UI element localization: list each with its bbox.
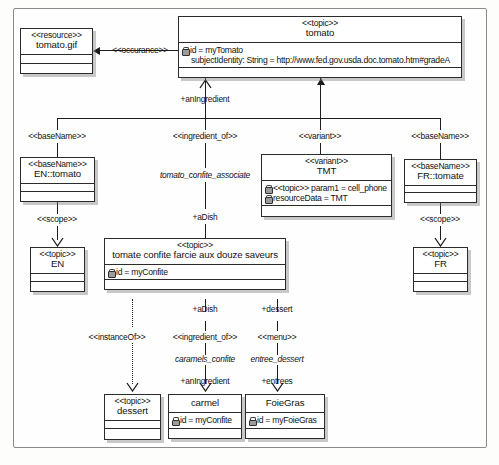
node-header: <<topic>> FR (414, 248, 467, 274)
connector-basename-en (57, 143, 58, 157)
lock-icon (265, 185, 271, 192)
lock-icon (265, 195, 271, 202)
node-header: <<variant>> TMT (262, 155, 391, 181)
node-name: tomato (183, 28, 457, 38)
label-scope-right: <<scope>> (420, 214, 460, 224)
connector-carmel-b (205, 321, 206, 331)
attribute-row: id = myConfite (108, 267, 282, 277)
connector-variant-tmt (320, 143, 321, 154)
label-adish-top: +aDish (192, 212, 217, 222)
attribute-text: <<topic>> param1 = cell_phone (273, 183, 387, 193)
attribute-text: id = myConfite (180, 415, 232, 425)
node-name: TMT (266, 166, 387, 176)
node-name: tomate confite farcie aux douze saveurs (109, 250, 281, 260)
connector-ingredient-upper (205, 143, 206, 168)
node-name: dessert (109, 406, 156, 416)
label-adish-bottom: +aDish (192, 304, 217, 314)
node-attributes (31, 274, 84, 282)
instanceof-arrowhead-icon (126, 382, 139, 392)
label-ingredient-of-top: <<ingredient_of>> (173, 131, 238, 141)
node-attributes: id = myTomato subjectIdentity: String = … (179, 43, 461, 68)
label-aningredient-bottom: +anIngredient (181, 376, 230, 386)
node-name: EN (35, 259, 80, 269)
attribute-text: id = myTomato (190, 45, 243, 55)
node-attributes (21, 55, 92, 64)
node-attributes (405, 186, 476, 193)
lock-icon (182, 47, 188, 54)
lock-icon (108, 269, 114, 276)
lock-icon (249, 417, 255, 424)
diagram-canvas: <<resource>> tomato.gif <<topic>> tomato… (0, 0, 499, 465)
node-operations (105, 280, 285, 289)
attribute-row: id = myConfite (172, 415, 238, 425)
node-header: carmel (169, 395, 241, 413)
label-variant: <<variant>> (299, 131, 342, 141)
node-topic-dessert[interactable]: <<topic>> dessert (104, 394, 161, 440)
node-basename-en[interactable]: <<baseName>> EN::tomato (20, 157, 95, 202)
attribute-row: <<topic>> param1 = cell_phone (265, 183, 388, 193)
node-basename-fr[interactable]: <<baseName>> FR::tomate (404, 159, 477, 203)
node-operations (21, 64, 92, 73)
connector-instanceof-lower (132, 343, 133, 384)
attribute-text: resourceData = TMT (273, 193, 347, 203)
node-attributes: id = myConfite (105, 265, 285, 280)
node-name: FoieGras (250, 398, 320, 408)
node-topic-confite[interactable]: <<topic>> tomate confite farcie aux douz… (104, 238, 286, 290)
attribute-text: id = myConfite (116, 267, 168, 277)
node-header: <<topic>> tomato (179, 17, 461, 43)
attribute-row: subjectIdentity: String = http://www.fed… (182, 55, 458, 65)
label-entree-dessert: entree_dessert (250, 354, 303, 364)
node-resource-tomato-gif[interactable]: <<resource>> tomato.gif (20, 28, 93, 74)
node-attributes: id = myFoieGras (246, 413, 324, 428)
node-header: <<topic>> tomate confite farcie aux douz… (105, 239, 285, 265)
node-operations (405, 193, 476, 202)
node-topic-foiegras[interactable]: FoieGras id = myFoieGras (245, 394, 325, 439)
node-header: <<topic>> EN (31, 248, 84, 274)
lock-icon (172, 417, 178, 424)
connector-drop-ingredient (205, 118, 206, 130)
connector-foiegras-b (277, 321, 278, 331)
connector-drop-variant (320, 118, 321, 130)
label-instanceof: <<instanceOf>> (89, 332, 146, 342)
node-attributes (105, 421, 160, 429)
node-header: <<topic>> dessert (105, 395, 160, 421)
connector-drop-basename-left (57, 118, 58, 130)
label-basename-right: <<baseName>> (411, 131, 469, 141)
node-topic-fr[interactable]: <<topic>> FR (413, 247, 468, 292)
node-header: FoieGras (246, 395, 324, 413)
variant-arrowhead-icon (317, 78, 325, 85)
node-attributes: <<topic>> param1 = cell_phone resourceDa… (262, 181, 391, 206)
node-topic-en[interactable]: <<topic>> EN (30, 247, 85, 292)
label-tomato-confite-associate: tomato_confite_associate (160, 170, 250, 180)
aningredient-arrowhead-icon (199, 79, 212, 89)
connector-ingredient-mid (205, 182, 206, 209)
attribute-text: id = myFoieGras (257, 415, 317, 425)
label-basename-left: <<baseName>> (28, 131, 86, 141)
node-operations (21, 192, 94, 201)
connector-scope-fr-upper (440, 203, 441, 214)
node-header: <<baseName>> EN::tomato (21, 158, 94, 184)
node-name: FR (418, 259, 463, 269)
label-entrees: +entrees (261, 376, 292, 386)
scope-fr-arrowhead-icon (434, 237, 447, 247)
attribute-text: subjectIdentity: String = http://www.fed… (191, 55, 450, 65)
label-caramels-confite: caramels_confite (175, 354, 235, 364)
node-variant-tmt[interactable]: <<variant>> TMT <<topic>> param1 = cell_… (261, 154, 392, 217)
node-header: <<baseName>> FR::tomate (405, 160, 476, 186)
connector-drop-basename-right (440, 118, 441, 130)
connector-distribution-bar (57, 118, 441, 119)
node-operations (105, 429, 160, 439)
node-operations (179, 68, 461, 77)
node-name: FR::tomate (409, 171, 472, 181)
node-name: carmel (173, 398, 237, 408)
label-menu: <<menu>> (258, 332, 297, 342)
label-scope-left: <<scope>> (37, 214, 77, 224)
node-header: <<resource>> tomato.gif (21, 29, 92, 55)
node-topic-carmel[interactable]: carmel id = myConfite (168, 394, 242, 439)
label-occurance: <<occurance>> (112, 45, 168, 55)
connector-ingredient-lower (205, 224, 206, 238)
node-topic-tomato[interactable]: <<topic>> tomato id = myTomato subjectId… (178, 16, 462, 78)
attribute-row: resourceData = TMT (265, 193, 388, 203)
label-aningredient-top: +anIngredient (181, 94, 230, 104)
node-operations (246, 429, 324, 438)
